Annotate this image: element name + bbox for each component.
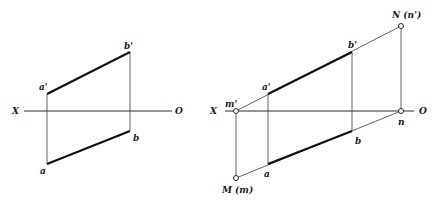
label-b-right: b xyxy=(355,136,361,146)
segment-a-prime-b-prime xyxy=(47,52,130,94)
o-label-left: O xyxy=(175,106,183,116)
segment-a-b-right xyxy=(268,131,352,164)
segment-a-prime-b-prime-right xyxy=(268,52,352,94)
x-label-right: X xyxy=(209,106,218,116)
x-label-left: X xyxy=(11,106,20,116)
label-b-prime-right: b' xyxy=(348,40,357,50)
left-diagram: X O a' b' b a xyxy=(11,41,183,176)
label-a-right: a xyxy=(264,169,270,179)
point-n xyxy=(399,109,404,114)
label-a-prime: a' xyxy=(39,82,48,92)
label-a-prime-right: a' xyxy=(262,82,271,92)
label-N-n-prime: N (n') xyxy=(391,10,421,20)
point-N xyxy=(399,24,404,29)
label-b: b xyxy=(133,133,139,143)
label-M-m: M (m) xyxy=(221,185,253,195)
o-label-right: O xyxy=(419,106,427,116)
label-m-prime: m' xyxy=(225,99,237,109)
point-M xyxy=(234,176,239,181)
projection-diagram: X O a' b' b a X O m' M (m) N (n') n xyxy=(0,0,437,204)
label-b-prime: b' xyxy=(124,41,133,51)
point-m-prime xyxy=(234,109,239,114)
label-n: n xyxy=(398,117,405,127)
segment-a-b xyxy=(47,131,130,164)
label-a: a xyxy=(40,166,46,176)
right-diagram: X O m' M (m) N (n') n a' b' b a xyxy=(209,10,427,195)
